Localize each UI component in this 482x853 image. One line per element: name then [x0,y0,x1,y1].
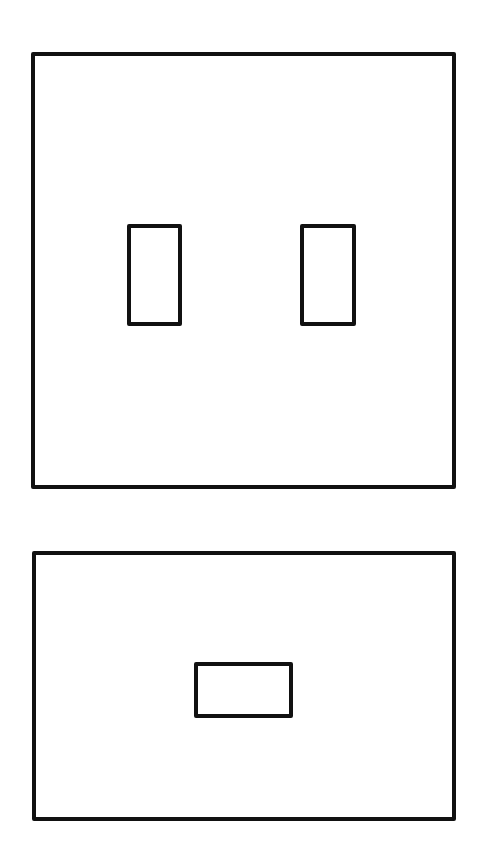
center-horizontal-slot [194,662,293,718]
upper-square-panel [31,52,456,489]
left-vertical-slot [127,224,182,326]
right-vertical-slot [300,224,356,326]
